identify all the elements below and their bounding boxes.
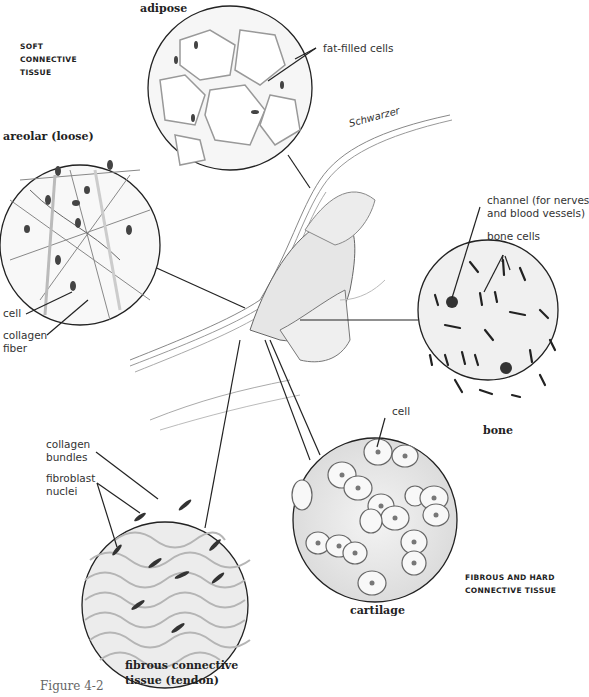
collagen-bundles-label: collagen bundles — [46, 438, 90, 464]
collagen-fiber-label: collagen fiber — [3, 329, 47, 355]
bone-circle — [418, 240, 558, 397]
adipose-circle — [148, 6, 312, 170]
areolar-title: areolar (loose) — [3, 130, 94, 143]
channel-label: channel (for nerves and blood vessels) — [487, 194, 589, 220]
bone-title: bone — [483, 424, 513, 437]
artist-signature: Schwarzer — [348, 105, 402, 129]
fibroblast-nuclei-label: fibroblast nuclei — [46, 472, 95, 498]
cell-label: cell — [3, 307, 21, 320]
adipose-title: adipose — [140, 2, 187, 15]
cartilage-cell-label: cell — [392, 405, 410, 418]
soft-tissue-heading: SOFT CONNECTIVE TISSUE — [20, 40, 77, 79]
bone-cells-label: bone cells — [487, 230, 540, 243]
hard-tissue-heading: FIBROUS AND HARD CONNECTIVE TISSUE — [465, 571, 556, 597]
fat-filled-cells-label: fat-filled cells — [323, 42, 394, 55]
figure-caption: Figure 4-2 — [40, 679, 104, 693]
tendon-title: fibrous connective tissue (tendon) — [125, 658, 238, 688]
cartilage-circle — [292, 438, 457, 602]
cartilage-title: cartilage — [350, 604, 405, 617]
arm-muscle-drawing — [130, 115, 452, 430]
areolar-circle — [0, 160, 160, 325]
